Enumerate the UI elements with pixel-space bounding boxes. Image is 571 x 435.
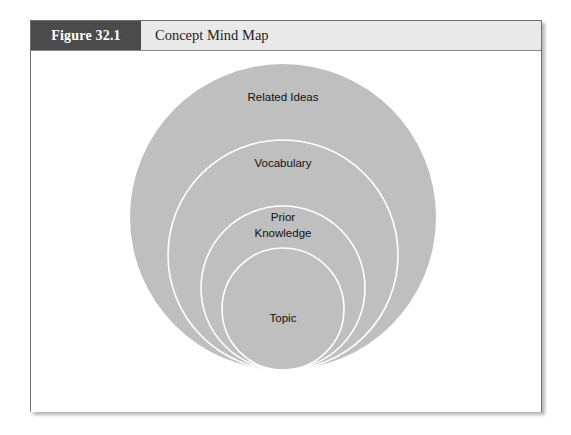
figure-title: Concept Mind Map	[141, 21, 269, 50]
figure-container: Figure 32.1 Concept Mind Map Related Ide…	[30, 20, 542, 412]
figure-body: Related Ideas Vocabulary Prior Knowledge…	[31, 51, 541, 412]
label-knowledge: Knowledge	[255, 227, 312, 239]
mind-map-diagram: Related Ideas Vocabulary Prior Knowledge…	[31, 51, 541, 412]
label-topic: Topic	[270, 312, 297, 324]
figure-header: Figure 32.1 Concept Mind Map	[31, 21, 541, 51]
label-prior: Prior	[271, 211, 295, 223]
label-vocabulary: Vocabulary	[255, 157, 312, 169]
figure-number-badge: Figure 32.1	[31, 21, 141, 50]
label-related-ideas: Related Ideas	[248, 91, 319, 103]
ring-topic	[222, 248, 344, 370]
